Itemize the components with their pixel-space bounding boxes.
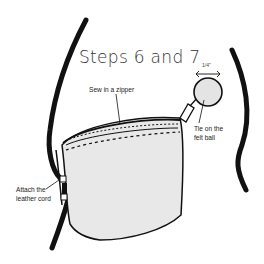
label-attach-line1: Attach the xyxy=(16,185,51,194)
ball-size-label: 1/4" xyxy=(202,61,211,70)
bag-body xyxy=(62,117,183,240)
leader-sew-zipper xyxy=(116,94,120,124)
label-tie-line2: felt ball xyxy=(194,133,223,142)
illustration xyxy=(0,0,264,264)
size-arrow xyxy=(196,71,220,77)
cord-knot xyxy=(62,183,67,194)
cord-loop-upper xyxy=(60,176,66,182)
diagram-title: Steps 6 and 7 xyxy=(79,47,200,67)
felt-ball xyxy=(194,78,222,106)
leather-cord-right xyxy=(232,50,247,190)
label-sew-zipper: Sew in a zipper xyxy=(89,85,134,94)
cord-loop-lower xyxy=(61,194,67,200)
label-tie-line1: Tie on the xyxy=(194,124,223,133)
zipper-pull xyxy=(180,104,194,122)
label-tie-felt-ball: Tie on the felt ball xyxy=(194,124,223,142)
leather-cord-left-lower xyxy=(52,200,68,248)
label-attach-line2: leather cord xyxy=(16,194,51,203)
diagram: Steps 6 and 7 1/4" Sew in a zipper Tie o… xyxy=(0,0,264,264)
label-attach-cord: Attach the leather cord xyxy=(16,185,51,203)
